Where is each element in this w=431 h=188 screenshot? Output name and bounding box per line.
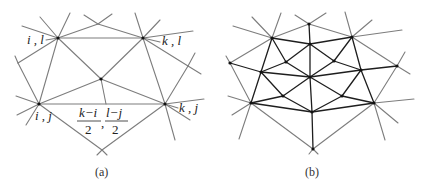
figure-canvas: i , l k , l i , j k , j k−i 2 , l−j 2 (a…	[0, 0, 431, 188]
vertex-i-j	[37, 102, 40, 105]
vertex	[228, 61, 231, 64]
vertex-center	[99, 77, 102, 80]
caption-a: (a)	[95, 165, 108, 179]
fraction-numerator-1: k−i	[79, 105, 98, 120]
vertex	[284, 60, 287, 63]
vertex	[249, 101, 252, 104]
vertex	[332, 59, 335, 62]
vertex-i-l	[56, 36, 59, 39]
vertex	[359, 68, 362, 71]
label-i-j: i , j	[35, 108, 52, 123]
vertex	[259, 70, 262, 73]
vertex	[307, 22, 310, 25]
panel-a-labels: i , l k , l i , j k , j k−i 2 , l−j 2	[27, 32, 199, 137]
caption-b: (b)	[305, 165, 319, 179]
fraction-numerator-2: l−j	[106, 105, 122, 120]
vertex	[350, 35, 353, 38]
vertex	[308, 42, 311, 45]
panel-b-inner-edges	[230, 24, 397, 149]
label-i-l: i , l	[27, 32, 44, 47]
fraction-denominator-2: 2	[112, 122, 119, 137]
panel-a-vertices	[37, 36, 166, 105]
vertex	[372, 101, 375, 104]
vertex	[310, 110, 313, 113]
fraction-denominator-1: 2	[85, 122, 92, 137]
vertex	[270, 36, 273, 39]
midpoint-fraction: k−i 2 , l−j 2	[77, 105, 128, 137]
panel-a: i , l k , l i , j k , j k−i 2 , l−j 2 (a…	[15, 13, 204, 179]
vertex-k-l	[141, 36, 144, 39]
panel-b: (b)	[226, 12, 414, 179]
vertex	[308, 75, 311, 78]
vertex	[281, 94, 284, 97]
panel-b-vertices	[228, 22, 398, 150]
fraction-separator: ,	[101, 115, 104, 130]
vertex	[311, 147, 314, 150]
vertex	[395, 64, 398, 67]
label-k-j: k , j	[179, 100, 199, 115]
vertex-k-j	[163, 102, 166, 105]
vertex	[340, 94, 343, 97]
label-k-l: k , l	[162, 33, 182, 48]
